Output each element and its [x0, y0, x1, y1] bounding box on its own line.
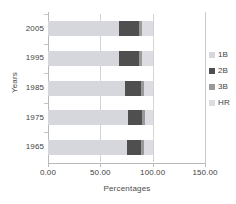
x-axis-tick-label: 0.00: [26, 168, 70, 177]
bar-segment-hr[interactable]: [144, 140, 152, 155]
bar-segment-2b[interactable]: [119, 21, 139, 36]
legend-item[interactable]: 2B: [209, 63, 236, 79]
bar-segment-hr[interactable]: [142, 21, 152, 36]
plot-area: [48, 14, 205, 162]
bar-segment-1b[interactable]: [48, 81, 125, 96]
legend-item-label: HR: [218, 99, 230, 107]
x-axis-tick-labels: 0.0050.00100.00150.00: [0, 168, 236, 180]
x-axis-tick-mark: [100, 163, 101, 167]
y-axis-tick-mark: [44, 44, 48, 45]
bar-segment-2b[interactable]: [128, 110, 143, 125]
x-axis-tick-mark: [205, 163, 206, 167]
bar-segment-1b[interactable]: [48, 140, 127, 155]
legend-swatch-icon: [209, 52, 215, 58]
bar-segment-2b[interactable]: [125, 81, 141, 96]
bar-segment-2b[interactable]: [127, 140, 142, 155]
legend-item-label: 3B: [218, 83, 228, 91]
y-axis-tick-label: 1985: [10, 83, 44, 92]
x-axis-line: [48, 163, 206, 164]
y-axis-tick-label: 1975: [10, 113, 44, 122]
bar-segment-hr[interactable]: [144, 81, 152, 96]
x-axis-tick-label: 100.00: [131, 168, 175, 177]
legend-swatch-icon: [209, 84, 215, 90]
y-axis-tick-mark: [44, 14, 48, 15]
stacked-bar-chart: Years 20051995198519751965 0.0050.00100.…: [0, 0, 236, 204]
legend-item-label: 1B: [218, 51, 228, 59]
x-axis-tick-label: 150.00: [183, 168, 227, 177]
x-axis-tick-mark: [153, 163, 154, 167]
bar-segment-1b[interactable]: [48, 21, 119, 36]
legend-swatch-icon: [209, 100, 215, 106]
gridline: [153, 14, 154, 162]
legend-item[interactable]: 3B: [209, 79, 236, 95]
bar-segment-1b[interactable]: [48, 110, 128, 125]
bar-segment-hr[interactable]: [145, 110, 152, 125]
y-axis-tick-label: 1965: [10, 142, 44, 151]
chart-legend: 1B2B3BHR: [209, 47, 236, 111]
legend-item-label: 2B: [218, 67, 228, 75]
x-axis-tick-mark: [48, 163, 49, 167]
bar-segment-hr[interactable]: [142, 51, 152, 66]
y-axis-tick-mark: [44, 73, 48, 74]
legend-item[interactable]: 1B: [209, 47, 236, 63]
y-axis-tick-mark: [44, 103, 48, 104]
legend-item[interactable]: HR: [209, 95, 236, 111]
bar-segment-1b[interactable]: [48, 51, 119, 66]
y-axis-tick-label: 2005: [10, 24, 44, 33]
bar-segment-2b[interactable]: [119, 51, 139, 66]
x-axis-title: Percentages: [48, 184, 206, 193]
legend-divider: [205, 12, 206, 164]
y-axis-tick-mark: [44, 132, 48, 133]
y-axis-tick-label: 1995: [10, 53, 44, 62]
legend-swatch-icon: [209, 68, 215, 74]
x-axis-tick-label: 50.00: [78, 168, 122, 177]
